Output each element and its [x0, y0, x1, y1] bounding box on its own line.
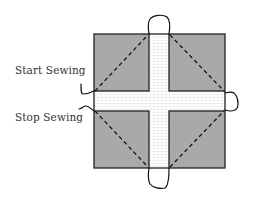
thread-start-sewing: [81, 84, 94, 94]
thread-loop-top: [148, 15, 169, 34]
thread-loop-bottom: [148, 168, 169, 188]
thread-loop-right: [225, 92, 238, 111]
horizontal-sashing: [94, 91, 225, 111]
quilt-block-graphic: [0, 0, 253, 204]
start-sewing-label: Start Sewing: [15, 64, 86, 76]
stop-sewing-label: Stop Sewing: [15, 111, 83, 123]
sewing-diagram: Start Sewing Stop Sewing: [0, 0, 253, 204]
